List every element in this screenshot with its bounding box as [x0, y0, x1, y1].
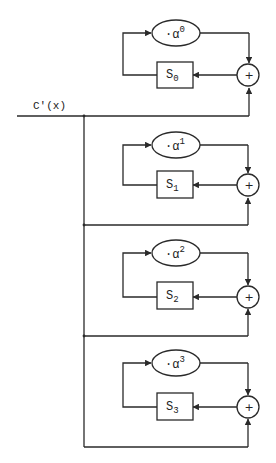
register-feedback [123, 253, 157, 297]
register-feedback [123, 33, 157, 75]
register-feedback [123, 363, 157, 407]
plus-icon: + [245, 291, 254, 304]
syndrome-circuit-diagram: C'(x) ·α0 S0 + ·α1 S1 + [0, 0, 276, 463]
input-label: C'(x) [33, 100, 66, 112]
junction-dot [83, 224, 86, 227]
stage-block-0: ·α0 S0 + [123, 20, 259, 88]
stage-block-2: ·α2 S2 + [123, 240, 259, 309]
junction-dot [83, 115, 86, 118]
stage-block-1: ·α1 S1 + [123, 132, 259, 198]
register-feedback [123, 145, 157, 185]
junction-dot [83, 335, 86, 338]
stage-block-3: ·α3 S3 + [123, 350, 259, 420]
plus-icon: + [245, 179, 254, 192]
plus-icon: + [245, 69, 254, 82]
plus-icon: + [245, 401, 254, 414]
